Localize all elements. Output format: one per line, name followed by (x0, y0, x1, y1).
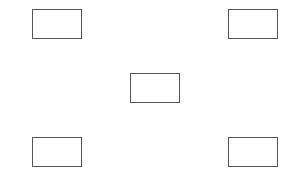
box-top-right (228, 9, 278, 39)
box-bottom-left (32, 137, 82, 167)
box-top-left (32, 9, 82, 39)
box-bottom-right (228, 137, 278, 167)
box-center (130, 73, 180, 103)
diagram-canvas (0, 0, 293, 179)
